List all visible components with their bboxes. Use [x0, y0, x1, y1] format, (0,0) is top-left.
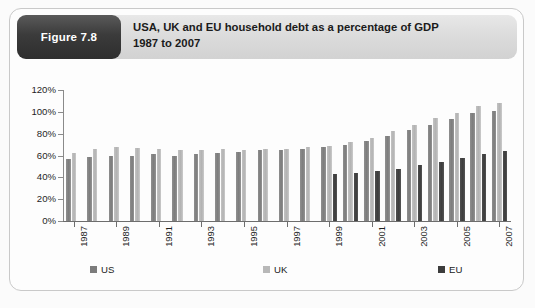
x-axis-tick-label: 2005: [461, 226, 472, 247]
bar-eu-2004: [439, 162, 444, 221]
figure-title: USA, UK and EU household debt as a perce…: [133, 20, 511, 51]
figure-number-label: Figure 7.8: [41, 31, 97, 43]
bar-us-1992: [172, 156, 177, 222]
bar-group: [258, 90, 279, 221]
bar-eu-2006: [482, 154, 487, 221]
bar-group: [109, 90, 130, 221]
chart-area: 0%20%40%60%80%100%120% 19871989199119931…: [10, 64, 525, 290]
bar-group: [385, 90, 406, 221]
x-axis-tick-mark: [372, 222, 373, 227]
bar-us-1987: [66, 159, 71, 221]
bar-uk-1995: [242, 150, 247, 221]
bar-uk-1992: [178, 150, 183, 221]
bar-us-1989: [109, 156, 114, 222]
figure-card: Figure 7.8 USA, UK and EU household debt…: [9, 8, 524, 291]
bar-uk-2005: [455, 113, 460, 221]
bar-uk-2001: [370, 138, 375, 221]
bar-group: [194, 90, 215, 221]
bar-group: [321, 90, 342, 221]
bar-group: [300, 90, 321, 221]
y-axis-tick-mark: [58, 221, 63, 222]
bar-us-1996: [258, 150, 263, 221]
y-axis-tick-label: 0%: [12, 215, 56, 226]
bar-us-1995: [236, 152, 241, 221]
bar-uk-1998: [306, 147, 311, 221]
x-axis-tick-label: 1995: [248, 226, 259, 247]
y-axis-tick-mark: [58, 90, 63, 91]
x-axis-tick-mark: [457, 222, 458, 227]
y-axis-tick-mark: [58, 134, 63, 135]
legend-label: EU: [449, 264, 462, 275]
legend-label: US: [101, 264, 114, 275]
bar-us-2001: [364, 141, 369, 221]
bar-uk-1996: [263, 149, 268, 221]
bar-group: [449, 90, 470, 221]
x-axis-tick-mark: [329, 222, 330, 227]
bar-us-2006: [470, 113, 475, 221]
x-axis-tick-mark: [116, 222, 117, 227]
bar-us-2000: [343, 145, 348, 221]
bar-us-2007: [492, 111, 497, 221]
bar-group: [364, 90, 385, 221]
y-axis-tick-mark: [58, 112, 63, 113]
y-axis-tick-label: 40%: [12, 171, 56, 182]
bar-eu-2002: [396, 169, 401, 221]
bar-uk-1990: [135, 148, 140, 221]
x-axis-tick-mark: [201, 222, 202, 227]
legend-swatch-eu-icon: [438, 266, 445, 273]
x-axis-tick-mark: [74, 222, 75, 227]
bar-uk-2003: [412, 125, 417, 221]
bar-us-2004: [428, 125, 433, 221]
bar-group: [151, 90, 172, 221]
bar-us-1988: [87, 157, 92, 221]
bar-group: [470, 90, 491, 221]
bar-uk-1987: [72, 153, 77, 221]
x-axis-tick-label: 2001: [376, 226, 387, 247]
bar-eu-2003: [418, 165, 423, 221]
y-axis-tick-label: 100%: [12, 106, 56, 117]
bar-us-1990: [130, 156, 135, 222]
legend-label: UK: [274, 264, 287, 275]
legend-item-eu[interactable]: EU: [438, 264, 462, 275]
bar-group: [407, 90, 428, 221]
bar-eu-2007: [503, 151, 508, 221]
bar-us-1994: [215, 153, 220, 221]
plot-area: [63, 90, 510, 221]
bar-group: [172, 90, 193, 221]
bar-uk-1991: [157, 149, 162, 221]
bar-group: [343, 90, 364, 221]
bar-uk-2004: [433, 118, 438, 221]
x-axis-tick-label: 1997: [291, 226, 302, 247]
y-axis-labels: 0%20%40%60%80%100%120%: [10, 64, 56, 264]
bar-us-1999: [321, 147, 326, 221]
bar-us-1997: [279, 150, 284, 221]
bar-eu-2001: [375, 171, 380, 221]
bar-eu-2000: [354, 173, 359, 221]
bar-uk-1988: [93, 149, 98, 221]
y-axis-tick-label: 80%: [12, 128, 56, 139]
bar-eu-1999: [333, 174, 338, 221]
legend-swatch-us-icon: [90, 266, 97, 273]
legend-item-uk[interactable]: UK: [263, 264, 287, 275]
y-axis-tick-label: 20%: [12, 193, 56, 204]
x-axis-tick-mark: [287, 222, 288, 227]
figure-number-badge: Figure 7.8: [17, 15, 121, 59]
y-axis-tick-label: 60%: [12, 150, 56, 161]
bar-group: [215, 90, 236, 221]
bar-uk-1994: [221, 149, 226, 221]
x-axis-tick-label: 1999: [333, 226, 344, 247]
bar-group: [236, 90, 257, 221]
bar-uk-2007: [497, 103, 502, 221]
bar-group: [492, 90, 513, 221]
bar-uk-1997: [284, 149, 289, 221]
bar-uk-1989: [114, 147, 119, 221]
chart-legend: USUKEU: [63, 264, 511, 282]
x-axis-tick-mark: [244, 222, 245, 227]
legend-item-us[interactable]: US: [90, 264, 114, 275]
bar-us-1998: [300, 149, 305, 221]
figure-header-band: Figure 7.8 USA, UK and EU household debt…: [17, 15, 517, 59]
bar-uk-2006: [476, 106, 481, 221]
figure-title-line-1: USA, UK and EU household debt as a perce…: [133, 20, 511, 36]
bar-group: [66, 90, 87, 221]
x-axis-tick-label: 2003: [418, 226, 429, 247]
